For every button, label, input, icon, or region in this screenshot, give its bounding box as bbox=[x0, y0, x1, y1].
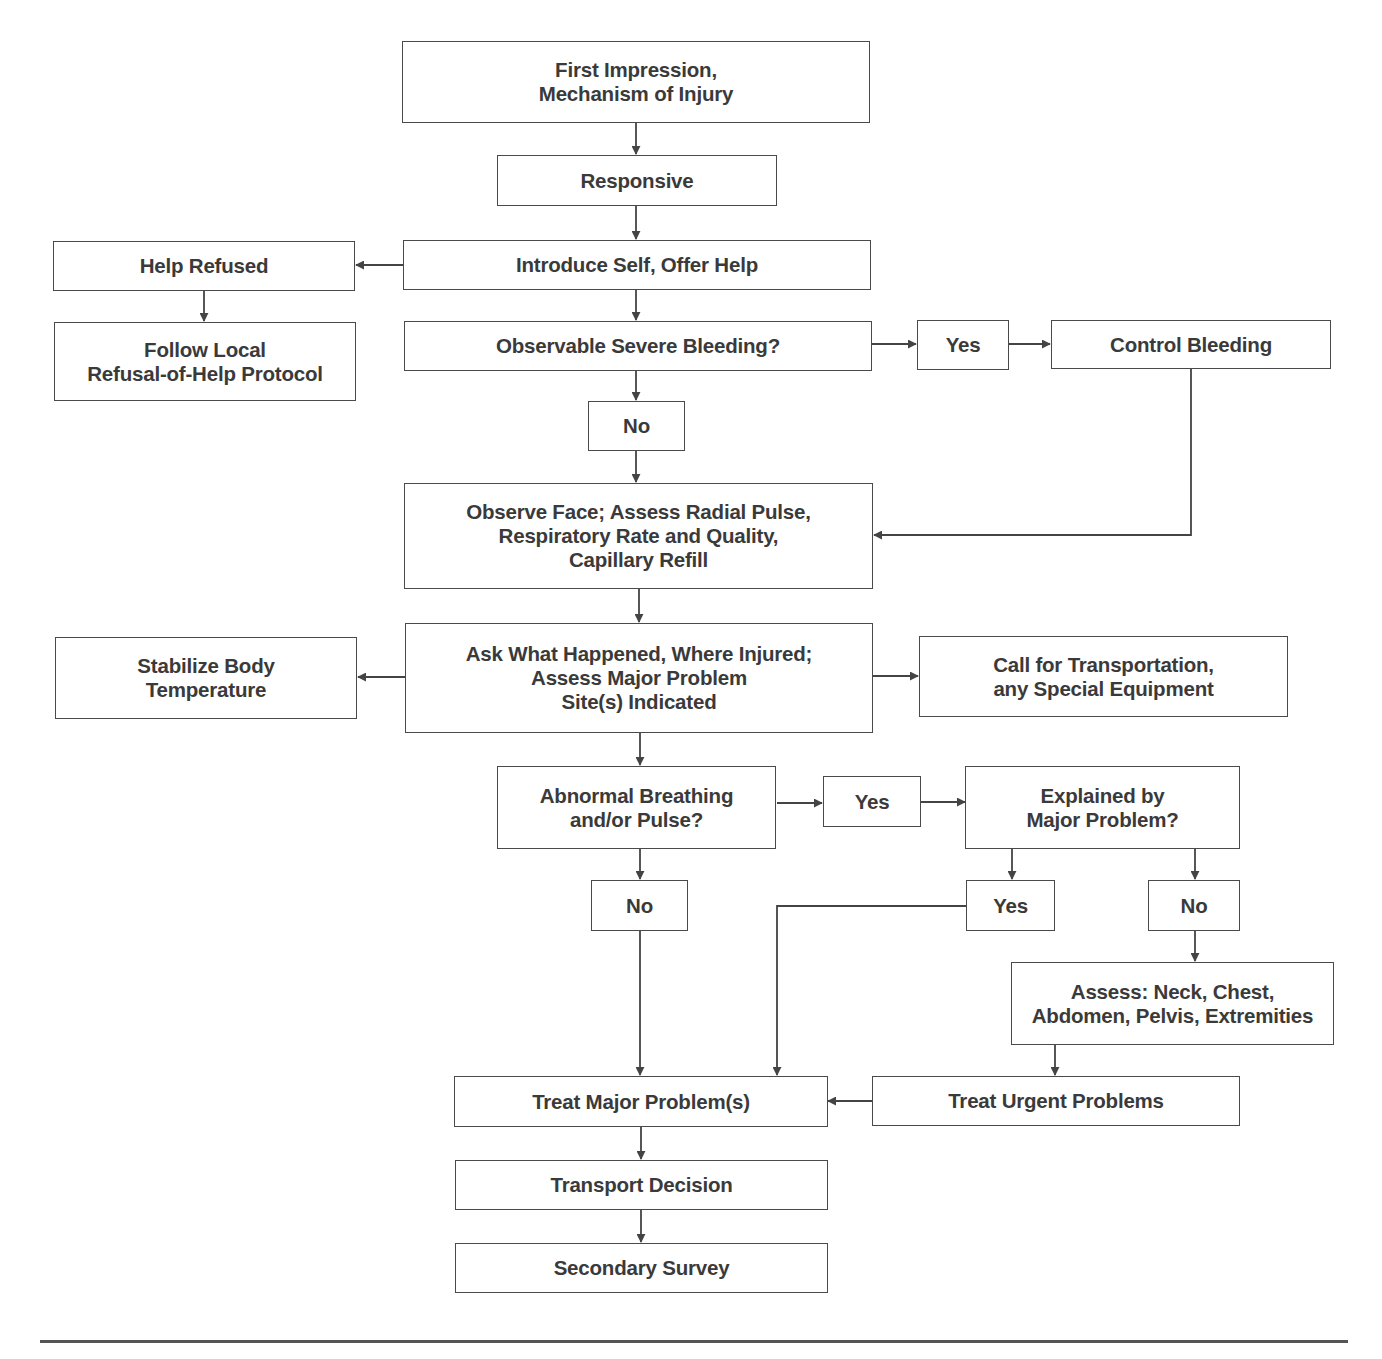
node-treat-major: Treat Major Problem(s) bbox=[454, 1076, 828, 1127]
node-explained-no: No bbox=[1148, 880, 1240, 931]
node-responsive: Responsive bbox=[497, 155, 777, 206]
node-treat-urgent: Treat Urgent Problems bbox=[872, 1076, 1240, 1126]
node-severe-bleeding: Observable Severe Bleeding? bbox=[404, 321, 872, 371]
bottom-divider bbox=[40, 1340, 1348, 1343]
node-transport-decision: Transport Decision bbox=[455, 1160, 828, 1210]
node-refusal-protocol: Follow Local Refusal-of-Help Protocol bbox=[54, 322, 356, 401]
node-bleeding-no: No bbox=[588, 401, 685, 451]
node-control-bleeding: Control Bleeding bbox=[1051, 320, 1331, 369]
node-breathing-yes: Yes bbox=[823, 776, 921, 827]
node-help-refused: Help Refused bbox=[53, 241, 355, 291]
node-call-transportation: Call for Transportation, any Special Equ… bbox=[919, 636, 1288, 717]
node-introduce-self: Introduce Self, Offer Help bbox=[403, 240, 871, 290]
node-observe-face: Observe Face; Assess Radial Pulse, Respi… bbox=[404, 483, 873, 589]
node-secondary-survey: Secondary Survey bbox=[455, 1243, 828, 1293]
node-first-impression: First Impression, Mechanism of Injury bbox=[402, 41, 870, 123]
node-stabilize-temperature: Stabilize Body Temperature bbox=[55, 637, 357, 719]
node-bleeding-yes: Yes bbox=[917, 320, 1009, 370]
node-explained-yes: Yes bbox=[966, 880, 1055, 931]
node-breathing-no: No bbox=[591, 880, 688, 931]
node-explained-major: Explained by Major Problem? bbox=[965, 766, 1240, 849]
node-abnormal-breathing: Abnormal Breathing and/or Pulse? bbox=[497, 766, 776, 849]
node-assess-regions: Assess: Neck, Chest, Abdomen, Pelvis, Ex… bbox=[1011, 962, 1334, 1045]
node-ask-what-happened: Ask What Happened, Where Injured; Assess… bbox=[405, 623, 873, 733]
